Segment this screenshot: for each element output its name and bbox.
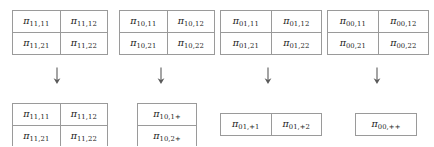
pi-symbol: π: [372, 118, 378, 129]
pi-subscript: 11,22: [77, 42, 97, 50]
down-arrow-icon: [369, 67, 385, 85]
cell: π00,21: [328, 33, 379, 55]
pi-subscript: 01,22: [289, 42, 309, 50]
pi-symbol: π: [233, 37, 239, 48]
pi-symbol: π: [178, 37, 184, 48]
cell: π01,21: [221, 33, 272, 55]
pi-subscript: 10,22: [184, 42, 204, 50]
cell: π10,1+: [138, 104, 197, 126]
pi-subscript: 00,22: [396, 42, 416, 50]
cell: π10,11: [120, 11, 168, 33]
pi-subscript: 00,21: [346, 42, 366, 50]
pi-subscript: 10,12: [184, 20, 204, 28]
top-table-pi-10: π10,11 π10,12 π10,21 π10,22: [119, 10, 215, 55]
group-pi-00: π00,11 π00,12 π00,21 π00,22 π00,++: [321, 0, 429, 146]
cell: π11,22: [60, 126, 108, 147]
down-arrow-icon: [153, 67, 169, 85]
pi-subscript: 11,21: [29, 135, 49, 143]
bottom-table-pi-01: π01,+1 π01,+2: [220, 113, 322, 136]
table-row: π01,11 π01,12: [221, 11, 322, 33]
pi-subscript: 11,21: [29, 42, 49, 50]
table-row: π11,11 π11,12: [13, 104, 108, 126]
table-row: π10,2+: [138, 126, 197, 147]
pi-subscript: 00,12: [396, 20, 416, 28]
pi-subscript: 11,11: [29, 20, 49, 28]
pi-subscript: 01,+2: [289, 123, 310, 131]
cell: π10,22: [167, 33, 215, 55]
pi-subscript: 10,1+: [159, 113, 180, 121]
pi-subscript: 00,++: [378, 123, 401, 131]
pi-symbol: π: [233, 15, 239, 26]
cell: π10,12: [167, 11, 215, 33]
pi-subscript: 00,11: [346, 20, 366, 28]
table-row: π10,21 π10,22: [120, 33, 215, 55]
cell: π00,22: [378, 33, 429, 55]
pi-subscript: 01,21: [239, 42, 259, 50]
bottom-table-pi-10: π10,1+ π10,2+: [137, 103, 197, 146]
pi-symbol: π: [340, 15, 346, 26]
top-table-pi-11: π11,11 π11,12 π11,21 π11,22: [12, 10, 108, 55]
down-arrow-icon: [49, 67, 65, 85]
pi-subscript: 10,21: [136, 42, 156, 50]
pi-subscript: 01,11: [239, 20, 259, 28]
bottom-table-pi-11: π11,11 π11,12 π11,21 π11,22: [12, 103, 108, 146]
pi-subscript: 01,12: [289, 20, 309, 28]
cell: π11,12: [60, 11, 108, 33]
cell: π11,22: [60, 33, 108, 55]
table-row: π01,+1 π01,+2: [221, 114, 322, 136]
pi-subscript: 11,12: [77, 20, 97, 28]
cell: π10,2+: [138, 126, 197, 147]
pi-symbol: π: [71, 15, 77, 26]
top-table-pi-01: π01,11 π01,12 π01,21 π01,22: [220, 10, 322, 55]
table-row: π01,21 π01,22: [221, 33, 322, 55]
down-arrow-icon: [260, 67, 276, 85]
table-row: π11,11 π11,12: [13, 11, 108, 33]
cell: π11,12: [60, 104, 108, 126]
cell: π00,12: [378, 11, 429, 33]
pi-subscript: 11,22: [77, 135, 97, 143]
cell: π10,21: [120, 33, 168, 55]
top-table-pi-00: π00,11 π00,12 π00,21 π00,22: [327, 10, 429, 55]
pi-subscript: 11,12: [77, 113, 97, 121]
cell: π11,11: [13, 11, 61, 33]
table-row: π00,++: [356, 114, 417, 136]
cell: π11,11: [13, 104, 61, 126]
pi-subscript: 01,+1: [238, 123, 259, 131]
cell: π11,21: [13, 126, 61, 147]
table-row: π10,1+: [138, 104, 197, 126]
group-pi-11: π11,11 π11,12 π11,21 π11,22 π11,11 π11,1…: [0, 0, 108, 146]
table-row: π10,11 π10,12: [120, 11, 215, 33]
figure-canvas: π11,11 π11,12 π11,21 π11,22 π11,11 π11,1…: [0, 0, 434, 146]
pi-symbol: π: [71, 108, 77, 119]
cell: π01,12: [271, 11, 322, 33]
pi-symbol: π: [71, 37, 77, 48]
table-row: π11,21 π11,22: [13, 33, 108, 55]
pi-subscript: 10,11: [136, 20, 156, 28]
cell: π00,11: [328, 11, 379, 33]
pi-subscript: 10,2+: [159, 135, 180, 143]
bottom-table-pi-00: π00,++: [355, 113, 417, 136]
cell: π01,22: [271, 33, 322, 55]
cell: π01,+1: [221, 114, 272, 136]
cell: π01,11: [221, 11, 272, 33]
pi-subscript: 11,11: [29, 113, 49, 121]
cell: π01,+2: [271, 114, 322, 136]
cell: π11,21: [13, 33, 61, 55]
pi-symbol: π: [71, 130, 77, 141]
table-row: π00,11 π00,12: [328, 11, 429, 33]
table-row: π11,21 π11,22: [13, 126, 108, 147]
pi-symbol: π: [282, 118, 288, 129]
pi-symbol: π: [340, 37, 346, 48]
group-pi-01: π01,11 π01,12 π01,21 π01,22 π01,+1 π01,+…: [214, 0, 322, 146]
table-row: π00,21 π00,22: [328, 33, 429, 55]
group-pi-10: π10,11 π10,12 π10,21 π10,22 π10,1+: [107, 0, 215, 146]
pi-symbol: π: [178, 15, 184, 26]
cell: π00,++: [356, 114, 417, 136]
